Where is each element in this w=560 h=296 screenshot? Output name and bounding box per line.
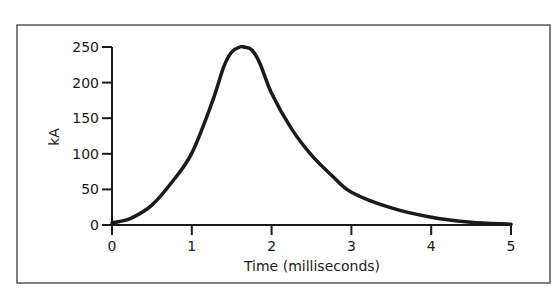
y-tick-label: 250 [72, 39, 99, 55]
chart: 050100150200250012345 kA Time (milliseco… [0, 0, 560, 296]
x-tick-label: 5 [507, 238, 516, 254]
y-tick-label: 150 [72, 110, 99, 126]
x-axis-label: Time (milliseconds) [243, 258, 380, 274]
ticks: 050100150200250012345 [72, 39, 515, 254]
x-tick-label: 3 [347, 238, 356, 254]
x-tick-label: 2 [267, 238, 276, 254]
y-tick-label: 100 [72, 146, 99, 162]
axes [112, 47, 511, 225]
x-tick-label: 1 [187, 238, 196, 254]
x-tick-label: 4 [427, 238, 436, 254]
current-curve [112, 47, 511, 225]
y-tick-label: 200 [72, 75, 99, 91]
x-tick-label: 0 [108, 238, 117, 254]
y-tick-label: 0 [90, 217, 99, 233]
y-tick-label: 50 [81, 181, 99, 197]
y-axis-label: kA [46, 128, 62, 146]
